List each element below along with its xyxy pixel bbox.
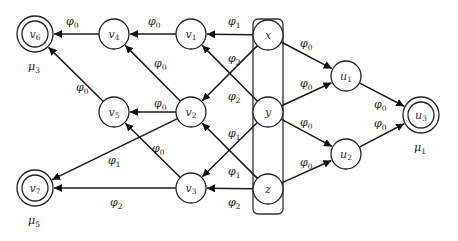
weight-label-v6: μ3 [28,60,40,75]
edge-label: φ0 [154,57,167,72]
edge-label: φ1 [228,165,240,180]
edge-label: φ2 [228,90,241,105]
edge-label: φ0 [76,81,89,96]
edge-label: φ2 [228,196,241,211]
edge-label: φ0 [300,116,313,131]
node-label: x [265,29,272,42]
edge-label: φ0 [300,77,313,92]
node-y: y [253,97,283,127]
node-v6: v6μ3 [17,16,53,75]
node-v1: v1 [176,19,206,49]
edge-label: φ0 [300,156,313,171]
node-label: y [264,106,272,119]
weighted-automaton-graph: v6μ3v4v1xv5v2yv7μ5v3zu1u2u3μ1 φ0φ0φ1φ0φ0… [0,0,458,241]
edge-u1-to-u3 [359,83,404,106]
node-v2: v2 [176,97,206,127]
edge-label: φ0 [300,37,313,52]
edge-v2-to-v4 [125,45,180,101]
edge-label: φ2 [228,52,241,67]
node-label: z [264,183,271,196]
node-u3: u3μ1 [403,97,439,156]
node-v7: v7μ5 [17,170,53,229]
edge-z-to-v3 [207,188,253,189]
edge-label: φ0 [154,97,167,112]
edge-label: φ0 [374,98,387,113]
edge-label: φ2 [110,196,123,211]
node-v3: v3 [176,173,206,203]
node-z: z [253,174,283,204]
edge-label: φ0 [148,15,161,30]
edge-x-to-v1 [207,34,253,35]
edge-label: φ1 [108,154,120,169]
weight-label-u3: μ1 [414,141,426,156]
node-v4: v4 [99,19,129,49]
edge-label: φ0 [374,117,387,132]
edge-label: φ0 [66,15,79,30]
edge-label: φ0 [152,142,165,157]
weight-label-v7: μ5 [28,214,40,229]
node-u1: u1 [331,61,361,91]
edge-label: φ1 [228,127,240,142]
node-u2: u2 [331,139,361,169]
node-v5: v5 [99,97,129,127]
edge-label: φ1 [228,15,240,30]
node-x: x [253,20,283,50]
